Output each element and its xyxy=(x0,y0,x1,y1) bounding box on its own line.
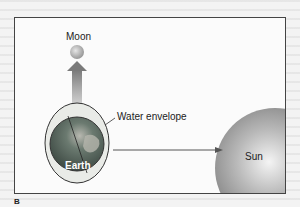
figure-label: B xyxy=(14,197,20,206)
water-envelope-label: Water envelope xyxy=(117,111,187,122)
diagram-canvas xyxy=(15,18,286,194)
sun-label: Sun xyxy=(245,151,263,162)
diagram-frame: Moon Water envelope Earth Sun xyxy=(14,17,286,194)
earth-label: Earth xyxy=(65,160,91,171)
moon-sphere xyxy=(70,45,84,59)
moon-label: Moon xyxy=(66,31,91,42)
gravity-arrow-to-sun xyxy=(113,147,223,153)
envelope-leader-line xyxy=(105,118,115,125)
